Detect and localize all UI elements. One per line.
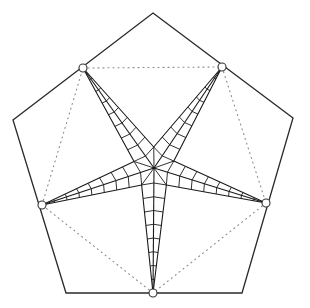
arm-outline: [166, 161, 266, 203]
pentagon-star-diagram: [0, 0, 310, 308]
arm-outline: [42, 161, 142, 205]
midpoint-circle: [262, 199, 270, 207]
arm-spine: [42, 168, 154, 205]
star-arm: [154, 67, 222, 168]
midpoint-circle: [218, 63, 226, 71]
dotted-line: [42, 68, 83, 205]
dotted-line: [153, 203, 266, 293]
center-spoke: [154, 168, 166, 185]
midpoint-circle: [79, 64, 87, 72]
dotted-line: [83, 67, 222, 68]
star-arm: [154, 161, 266, 203]
star-arm: [142, 168, 167, 293]
dotted-line: [222, 67, 266, 203]
midpoint-circle: [149, 289, 157, 297]
star-arm: [83, 68, 154, 168]
arm-outline: [154, 67, 222, 161]
star-arm: [42, 161, 154, 205]
midpoint-circle: [38, 201, 46, 209]
arm-spine: [154, 67, 222, 168]
arm-spine: [153, 168, 154, 293]
arm-spine: [83, 68, 154, 168]
dotted-line: [42, 205, 153, 293]
